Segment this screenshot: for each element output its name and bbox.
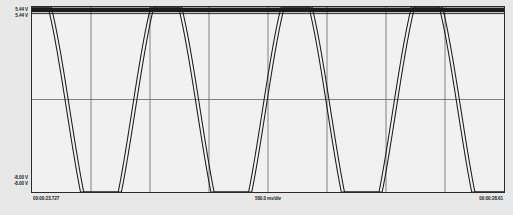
plot-inner — [32, 7, 504, 192]
y-axis-min-label-b: -8.00 V — [0, 181, 28, 186]
waveform-display: 5.44 V 5.44 V -8.00 V -8.00 V 00:00:23.7… — [0, 0, 513, 215]
plot-area[interactable] — [31, 6, 505, 193]
start-time-readout: 00:00:23.727 — [33, 196, 59, 202]
y-axis-max-label-b: 5.44 V — [0, 13, 28, 18]
timebase-readout: 500.0 ms/div — [255, 196, 281, 202]
end-time-readout: 00:00:28.61 — [479, 196, 503, 202]
y-axis-max-label-a: 5.44 V — [0, 7, 28, 12]
time-readout-strip: 00:00:23.727 500.0 ms/div 00:00:28.61 — [31, 194, 505, 208]
waveform-traces — [32, 7, 504, 192]
y-axis-min-label-a: -8.00 V — [0, 175, 28, 180]
